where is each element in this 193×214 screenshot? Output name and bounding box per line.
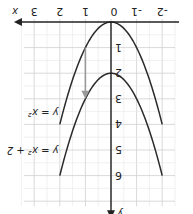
x-tick-label: 0 bbox=[111, 5, 118, 18]
x-axis-label: x bbox=[12, 6, 19, 17]
curve2-label: y = x² + 2 bbox=[7, 145, 60, 156]
x-tick-label: 1 bbox=[82, 5, 89, 18]
y-tick-label: 6 bbox=[115, 169, 122, 182]
x-axis-arrow-icon bbox=[14, 18, 22, 26]
y-tick-label: 2 bbox=[115, 66, 122, 79]
x-tick-label: 2 bbox=[56, 5, 63, 18]
y-axis-label: y bbox=[116, 208, 124, 214]
x-tick-label: -1 bbox=[131, 5, 142, 18]
chart-content: -2-10123123456xyy = x²y = x² + 2 bbox=[7, 5, 179, 214]
curve1-label: y = x² bbox=[28, 107, 60, 118]
y-tick-label: 1 bbox=[115, 41, 122, 54]
y-tick-label: 3 bbox=[115, 92, 122, 105]
y-tick-label: 5 bbox=[115, 143, 122, 156]
x-tick-label: -2 bbox=[157, 5, 168, 18]
parabola-chart: -2-10123123456xyy = x²y = x² + 2 bbox=[0, 0, 193, 214]
x-tick-label: 3 bbox=[31, 5, 38, 18]
y-axis-arrow-icon bbox=[107, 210, 115, 214]
y-tick-label: 4 bbox=[115, 117, 122, 130]
